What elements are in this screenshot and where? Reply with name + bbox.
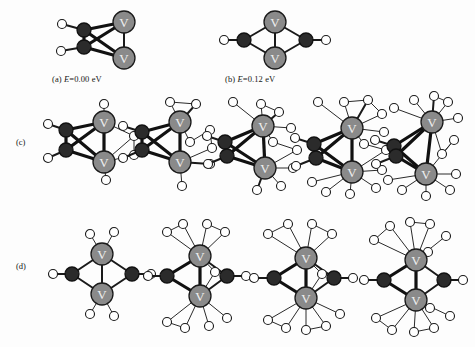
atom-hydrogen xyxy=(100,100,109,109)
row-label-d: (d) xyxy=(16,261,26,271)
atom-hydrogen xyxy=(211,268,220,277)
atom-label-vanadium: V xyxy=(347,121,357,136)
caption-a: (a) E=0.00 eV xyxy=(52,74,102,84)
atom-hydrogen xyxy=(291,134,300,143)
atom-hydrogen xyxy=(282,324,291,333)
bond-group xyxy=(123,102,212,186)
atom-carbon xyxy=(59,123,73,137)
atom-label-vanadium: V xyxy=(97,247,107,262)
atom-hydrogen xyxy=(179,220,188,229)
atom-hydrogen xyxy=(308,178,317,187)
atom-hydrogen xyxy=(163,318,172,327)
atom-carbon xyxy=(307,137,321,151)
atom-hydrogen xyxy=(166,98,175,107)
atom-label-vanadium: V xyxy=(427,115,437,130)
atom-carbon xyxy=(125,267,139,281)
heavy-atom-group: VV xyxy=(377,249,451,311)
structure-d-4: VV xyxy=(358,216,470,334)
atom-label-vanadium: V xyxy=(175,115,185,130)
atom-label-vanadium: V xyxy=(99,115,109,130)
structure-d-1: VV xyxy=(52,228,147,323)
atom-hydrogen xyxy=(49,270,58,279)
atom-hydrogen xyxy=(275,108,284,117)
atom-hydrogen xyxy=(192,100,201,109)
atom-hydrogen xyxy=(203,132,212,141)
atom-hydrogen xyxy=(119,154,128,163)
atom-carbon xyxy=(220,149,234,163)
atom-hydrogen xyxy=(340,98,349,107)
atom-label-vanadium: V xyxy=(411,293,421,308)
atom-carbon xyxy=(309,151,323,165)
atom-hydrogen xyxy=(229,98,238,107)
atom-hydrogen xyxy=(277,182,286,191)
row-label-c: (c) xyxy=(16,137,25,147)
caption-b: (b) E=0.12 eV xyxy=(225,74,275,84)
atom-hydrogen xyxy=(438,150,447,159)
atom-hydrogen xyxy=(44,120,53,129)
atom-label-vanadium: V xyxy=(301,251,311,266)
atom-hydrogen xyxy=(384,176,393,185)
atom-hydrogen xyxy=(292,162,301,171)
heavy-atom-group: VV xyxy=(218,115,276,179)
atom-hydrogen xyxy=(186,138,195,147)
atom-hydrogen xyxy=(322,322,331,331)
atom-hydrogen xyxy=(269,138,278,147)
atom-hydrogen xyxy=(371,136,380,145)
atom-hydrogen xyxy=(264,230,273,239)
atom-hydrogen xyxy=(454,114,463,123)
structure-a-triangular: VV xyxy=(48,6,158,72)
atom-carbon xyxy=(160,269,174,283)
heavy-atom-group: VV xyxy=(160,245,234,307)
atom-hydrogen xyxy=(257,100,266,109)
atom-hydrogen xyxy=(205,322,214,331)
atom-hydrogen xyxy=(102,176,111,185)
atom-carbon xyxy=(135,143,149,157)
atom-hydrogen xyxy=(181,324,190,333)
atom-hydrogen xyxy=(144,272,153,281)
heavy-atom-group: VV xyxy=(387,111,443,185)
atom-label-vanadium: V xyxy=(421,167,431,182)
atom-hydrogen xyxy=(360,140,369,149)
atom-hydrogen xyxy=(284,220,293,229)
atom-label-vanadium: V xyxy=(99,155,109,170)
atom-hydrogen xyxy=(446,312,455,321)
atom-label-vanadium: V xyxy=(411,253,421,268)
atom-hydrogen xyxy=(178,182,187,191)
atom-carbon xyxy=(389,149,403,163)
atom-label-vanadium: V xyxy=(260,161,270,176)
heavy-atom-group: VV xyxy=(267,247,341,309)
atom-label-vanadium: V xyxy=(97,287,107,302)
atom-hydrogen xyxy=(163,228,172,237)
atom-hydrogen xyxy=(110,312,119,321)
atom-hydrogen xyxy=(388,326,397,335)
atom-carbon xyxy=(77,23,91,37)
atom-carbon xyxy=(327,271,341,285)
atom-hydrogen xyxy=(360,276,369,285)
atom-hydrogen xyxy=(410,96,419,105)
atom-hydrogen xyxy=(370,236,379,245)
atom-hydrogen xyxy=(119,122,128,131)
atom-hydrogen xyxy=(318,270,327,279)
atom-label-vanadium: V xyxy=(270,15,280,30)
atom-hydrogen xyxy=(253,186,262,195)
atom-hydrogen xyxy=(422,192,431,201)
atom-hydrogen xyxy=(220,36,229,45)
atom-hydrogen xyxy=(426,220,435,229)
atom-carbon xyxy=(267,271,281,285)
atom-label-vanadium: V xyxy=(270,51,280,66)
atom-hydrogen xyxy=(57,47,66,56)
atom-hydrogen xyxy=(58,20,67,29)
atom-hydrogen xyxy=(86,310,95,319)
hydrogen-group xyxy=(119,98,217,191)
atom-hydrogen xyxy=(406,218,415,227)
heavy-atom-group: VV xyxy=(77,11,135,69)
atom-label-vanadium: V xyxy=(258,119,268,134)
atom-carbon xyxy=(65,267,79,281)
heavy-atom-group: VV xyxy=(307,117,363,183)
atom-hydrogen xyxy=(446,186,455,195)
atom-hydrogen xyxy=(452,170,461,179)
atom-hydrogen xyxy=(250,274,259,283)
atom-label-vanadium: V xyxy=(119,51,129,66)
hydrogen-group xyxy=(360,218,468,337)
atom-hydrogen xyxy=(322,36,331,45)
